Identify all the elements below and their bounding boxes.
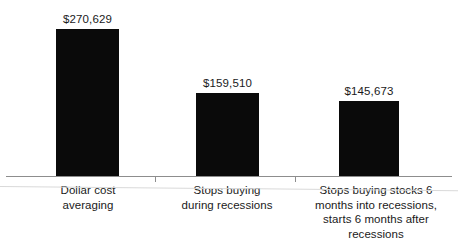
x-axis-tick-1 — [155, 177, 156, 182]
category-label-3-line-3: starts 6 months after — [298, 212, 454, 227]
bar-column-1[interactable]: $270,629 — [56, 0, 119, 177]
bar-value-label-2: $159,510 — [203, 77, 252, 90]
x-axis-category-label-2: Stops buying during recessions — [163, 183, 291, 212]
category-label-3-line-1: Stops buying stocks 6 — [298, 183, 454, 198]
bar-rect-1 — [56, 29, 119, 177]
x-axis-category-label-1: Dollar cost averaging — [18, 183, 158, 212]
bar-column-2[interactable]: $159,510 — [196, 0, 259, 177]
x-axis-category-label-3: Stops buying stocks 6 months into recess… — [298, 183, 454, 241]
bar-column-3[interactable]: $145,673 — [339, 0, 399, 177]
category-label-3-line-2: months into recessions, — [298, 198, 454, 213]
bar-chart-figure: $270,629 $159,510 $145,673 Dollar cost a… — [0, 0, 458, 244]
x-axis-line — [6, 176, 452, 177]
bar-rect-3 — [339, 101, 399, 177]
x-axis-tick-2 — [295, 177, 296, 182]
category-label-2-line-2: during recessions — [163, 198, 291, 213]
category-label-1-line-2: averaging — [18, 198, 158, 213]
plot-area: $270,629 $159,510 $145,673 — [0, 0, 458, 177]
bar-value-label-1: $270,629 — [63, 13, 112, 26]
category-label-1-line-1: Dollar cost — [18, 183, 158, 198]
category-label-3-line-4: recessions — [298, 227, 454, 242]
bar-value-label-3: $145,673 — [345, 85, 394, 98]
bar-rect-2 — [196, 93, 259, 177]
category-label-2-line-1: Stops buying — [163, 183, 291, 198]
